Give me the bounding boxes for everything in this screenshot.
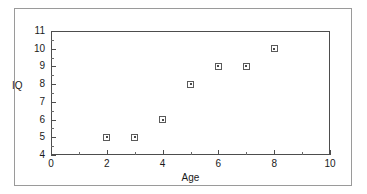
x-axis-tick-label: 8 [259, 158, 289, 169]
data-point-marker [103, 134, 110, 141]
x-axis-tick-label: 10 [315, 158, 345, 169]
data-point-marker [271, 45, 278, 52]
data-point-marker [243, 63, 250, 70]
y-axis-tick-label: 11 [15, 26, 45, 36]
y-axis-tick-label: 5 [15, 132, 45, 142]
y-axis-tick-label: 7 [15, 97, 45, 107]
data-point-marker [215, 63, 222, 70]
y-axis-tick-label: 10 [15, 44, 45, 54]
data-point-marker [187, 81, 194, 88]
x-axis-tick-label: 2 [92, 158, 122, 169]
x-axis-tick-label: 6 [203, 158, 233, 169]
x-axis-major-tick [330, 150, 331, 155]
y-axis-tick-label: 6 [15, 115, 45, 125]
y-axis-major-tick [51, 155, 56, 156]
y-axis-title: IQ [12, 80, 23, 91]
data-point-marker [159, 116, 166, 123]
data-point-marker [131, 134, 138, 141]
x-axis-tick-label: 0 [36, 158, 66, 169]
scatter-chart-figure: 4567891011 0246810 IQ Age [0, 0, 367, 194]
x-axis-tick-label: 4 [148, 158, 178, 169]
x-axis-title: Age [51, 172, 330, 183]
y-axis-tick-label: 9 [15, 61, 45, 71]
data-points-layer [51, 31, 330, 155]
